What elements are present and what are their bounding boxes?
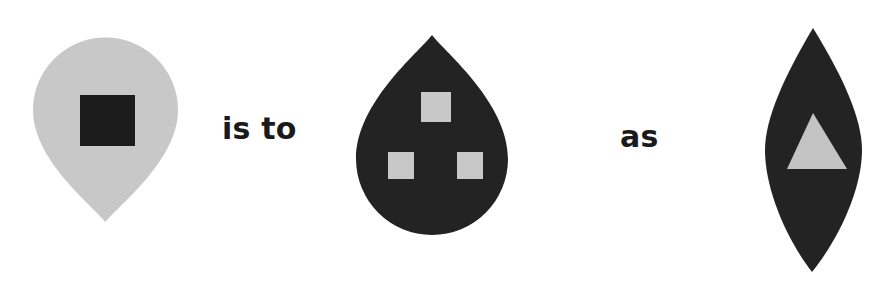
analogy-puzzle: is to as (0, 0, 883, 287)
panel-c-figure (0, 0, 883, 287)
